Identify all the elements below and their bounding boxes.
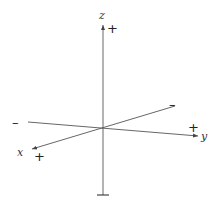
y-axis-label: y [200,130,208,143]
axes-diagram: z + – + y – + x [0,0,221,207]
y-axis-negative-sign: – [12,115,19,130]
x-axis-label: x [17,146,24,159]
z-axis-label: z [98,9,105,22]
x-axis-line [32,106,175,149]
y-axis-positive-sign: + [188,120,199,135]
y-axis-line [28,122,198,136]
x-axis-positive-sign: + [34,149,45,164]
z-axis-positive-sign: + [107,21,118,36]
x-axis-negative-sign: – [169,97,176,112]
